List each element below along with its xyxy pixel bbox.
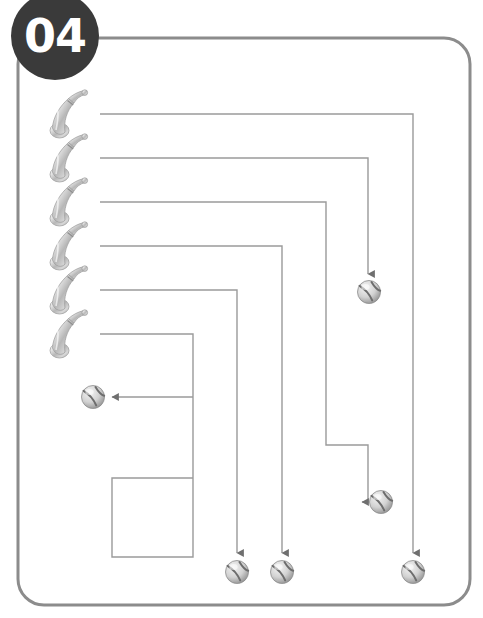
bat-6: [50, 310, 88, 358]
bat-2: [50, 134, 88, 182]
ball-bottom-1: [226, 561, 249, 584]
path-bat-3: [100, 202, 368, 502]
bat-4: [50, 222, 88, 270]
puzzle-frame: [18, 38, 470, 605]
badge-label: 04: [24, 9, 86, 63]
ball-bottom-2: [271, 561, 294, 584]
puzzle-number-badge: 04: [11, 0, 99, 80]
ball-mid-right: [370, 491, 393, 514]
maze-paths: [100, 114, 413, 557]
bat-3: [50, 178, 88, 226]
ball-bottom-3: [402, 561, 425, 584]
path-bat-4: [100, 246, 282, 553]
bat-5: [50, 266, 88, 314]
ball-mid-left: [82, 386, 105, 409]
puzzle-canvas: 04: [0, 0, 483, 618]
path-bat-2: [100, 158, 368, 274]
path-bat-6: [100, 334, 193, 557]
maze-puzzle-svg: 04: [0, 0, 483, 618]
path-bat-5: [100, 290, 237, 553]
ball-top-right: [358, 281, 381, 304]
bat-1: [50, 90, 88, 138]
